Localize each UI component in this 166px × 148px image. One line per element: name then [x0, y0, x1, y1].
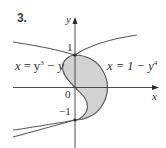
curve-label-exp: 4	[154, 59, 158, 67]
curve-label-eq: = y	[21, 59, 41, 73]
x-axis-label: x	[152, 90, 157, 102]
tick-label-zero: 0	[65, 88, 71, 100]
tick-label-neg-one: −1	[59, 105, 71, 117]
intersection-point-bottom	[73, 118, 76, 121]
problem-number: 3.	[17, 11, 27, 25]
curve-label-eq: = 1 − y	[113, 59, 154, 73]
figure: 3. y x 1 0 −1 x = y3 − y x = 1 − y4	[0, 0, 166, 148]
y-axis-arrow-icon	[73, 17, 78, 24]
curve-label-one-minus-y4: x = 1 − y4	[107, 59, 157, 74]
tick-label-one: 1	[67, 41, 73, 53]
intersection-point-top	[73, 53, 76, 56]
y-axis-label: y	[66, 13, 71, 25]
curve-label-rest: − y	[44, 59, 64, 73]
curve-label-y3-minus-y: x = y3 − y	[15, 59, 64, 74]
